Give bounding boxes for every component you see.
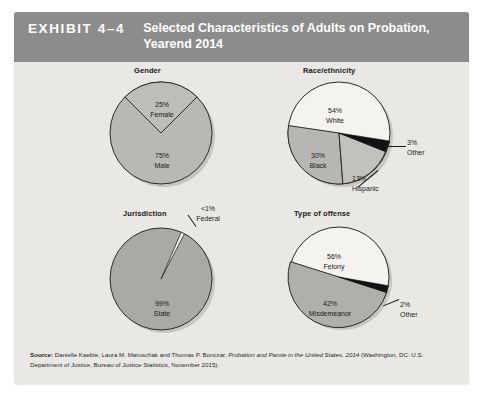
chart-race-label-other: 3% Other	[407, 138, 449, 157]
chart-gender-label-male: 75% Male	[135, 151, 189, 170]
source-label: Source:	[30, 351, 53, 358]
chart-offense: Type of offense 56% Felony 42% Misdemean…	[246, 204, 461, 336]
chart-jurisdiction-label-state: 99% State	[135, 299, 189, 318]
exhibit-panel: EXHIBIT 4–4 Selected Characteristics of …	[14, 12, 469, 384]
chart-race-title: Race/ethnicity	[303, 66, 355, 75]
jurisdiction-state-name: State	[154, 310, 170, 317]
jurisdiction-federal-name: Federal	[196, 215, 220, 222]
race-white-pct: 54%	[328, 107, 342, 114]
race-black-pct: 30%	[311, 152, 325, 159]
chart-jurisdiction: Jurisdiction <1% Federal 99% State	[66, 204, 256, 336]
offense-felony-pct: 56%	[327, 253, 341, 260]
jurisdiction-federal-pct: <1%	[201, 205, 215, 212]
jurisdiction-state-pct: 99%	[155, 300, 169, 307]
race-black-name: Black	[309, 162, 326, 169]
offense-other-name: Other	[400, 311, 418, 318]
race-white-name: White	[326, 117, 344, 124]
source-italic-title: Probation and Parole in the United State…	[228, 351, 359, 358]
chart-gender-title: Gender	[134, 66, 161, 75]
gender-male-pct: 75%	[155, 152, 169, 159]
offense-felony-name: Felony	[323, 263, 344, 270]
gender-male-name: Male	[154, 162, 169, 169]
chart-gender-pie	[108, 80, 216, 188]
offense-other-pct: 2%	[400, 301, 410, 308]
chart-offense-label-misdemeanor: 42% Misdemeanor	[292, 299, 368, 318]
chart-offense-title: Type of offense	[294, 209, 350, 218]
chart-gender-label-female: 25% Female	[135, 100, 189, 119]
source-note: Source: Danielle Kaeble, Laura M. Marusc…	[30, 350, 455, 369]
gender-female-name: Female	[150, 111, 173, 118]
chart-race: Race/ethnicity 54% White 30% Black 1	[246, 66, 461, 198]
chart-offense-label-other: 2% Other	[400, 300, 442, 319]
offense-misdemeanor-name: Misdemeanor	[309, 310, 351, 317]
chart-gender: Gender 25% Female 75% Male	[66, 66, 256, 196]
chart-jurisdiction-title: Jurisdiction	[123, 209, 167, 218]
exhibit-number-label: EXHIBIT 4–4	[28, 20, 125, 37]
offense-misdemeanor-pct: 42%	[323, 300, 337, 307]
race-other-pct: 3%	[407, 139, 417, 146]
leader-line-other	[384, 146, 406, 147]
exhibit-title: Selected Characteristics of Adults on Pr…	[143, 20, 443, 52]
chart-offense-pie	[286, 224, 398, 336]
race-other-name: Other	[407, 149, 425, 156]
gender-female-pct: 25%	[155, 101, 169, 108]
chart-race-label-black: 30% Black	[294, 151, 342, 170]
race-hispanic-name: Hispanic	[352, 185, 379, 192]
exhibit-header: EXHIBIT 4–4 Selected Characteristics of …	[14, 12, 469, 62]
chart-offense-label-felony: 56% Felony	[308, 252, 360, 271]
source-authors: Danielle Kaeble, Laura M. Maruschak and …	[53, 351, 228, 358]
chart-race-label-white: 54% White	[309, 106, 361, 125]
